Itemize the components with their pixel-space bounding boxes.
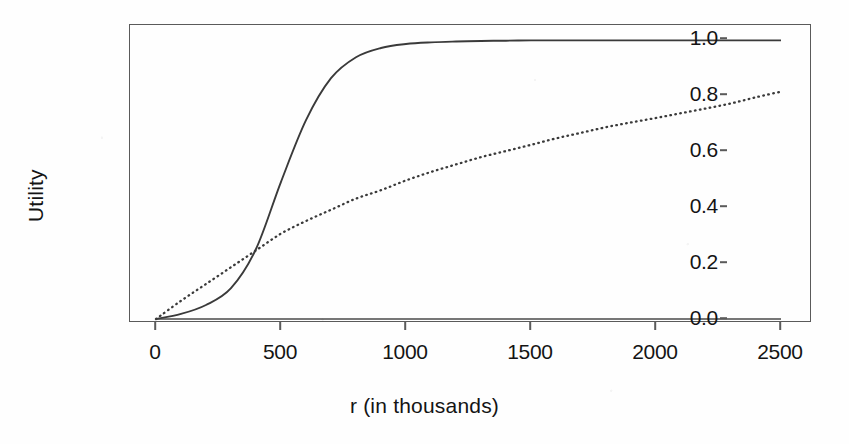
plot-area <box>130 25 812 323</box>
series-dotted-curve <box>156 92 781 319</box>
y-tick-mark <box>720 149 727 151</box>
x-tick-mark <box>529 322 531 330</box>
x-tick-label: 0 <box>149 340 160 364</box>
y-tick-mark <box>720 37 727 39</box>
y-axis-title: Utility <box>24 169 48 222</box>
x-tick-label: 500 <box>263 340 297 364</box>
y-tick-label: 1.0 <box>690 26 718 50</box>
y-tick-label: 0.0 <box>690 306 718 330</box>
y-tick-mark <box>720 205 727 207</box>
y-tick-mark <box>720 261 727 263</box>
x-tick-label: 2500 <box>757 340 803 364</box>
x-tick-label: 2000 <box>632 340 678 364</box>
x-tick-label: 1000 <box>382 340 428 364</box>
y-tick-label: 0.2 <box>690 250 718 274</box>
x-tick-mark <box>779 322 781 330</box>
x-tick-mark <box>404 322 406 330</box>
y-tick-mark <box>720 317 727 319</box>
figure: Utility r (in thousands) 0.00.20.40.60.8… <box>0 0 849 444</box>
series-solid-curve <box>156 40 781 319</box>
y-tick-mark <box>720 93 727 95</box>
x-tick-label: 1500 <box>507 340 553 364</box>
plot-panel <box>129 24 811 322</box>
y-tick-label: 0.6 <box>690 138 718 162</box>
y-axis <box>0 0 129 444</box>
y-tick-label: 0.4 <box>690 194 718 218</box>
x-axis-title: r (in thousands) <box>0 394 849 418</box>
y-tick-label: 0.8 <box>690 82 718 106</box>
x-tick-mark <box>654 322 656 330</box>
x-tick-mark <box>154 322 156 330</box>
x-tick-mark <box>279 322 281 330</box>
